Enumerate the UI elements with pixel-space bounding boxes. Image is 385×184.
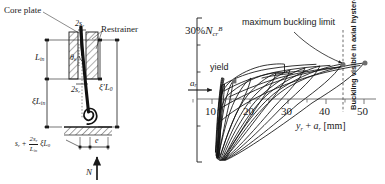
dim-tick-xiL0-bot [98, 78, 102, 81]
y-axis-percent: 30% [185, 24, 205, 36]
xi-l-in-sym: ξL [32, 96, 41, 106]
gap-mid-label: 2sr [71, 86, 80, 95]
left-diagram-panel: Core plate Restrainer 2sr 2sr Lin θb ξ'L… [0, 0, 188, 184]
max-buckling-limit-leader [294, 32, 342, 63]
theta-sub: b [74, 57, 76, 62]
x-tick-label-20: 20 [243, 106, 254, 117]
gap-top-sub: r [82, 23, 84, 28]
formula-plus: + [22, 139, 27, 148]
restrainer-right-block [86, 32, 98, 79]
xi-prime-l0-sub: 0 [110, 86, 113, 92]
formula-fraction: 2sr Lin [29, 135, 39, 153]
xi-prime-l0-sym: ξ'L [99, 82, 110, 92]
formula-fraction-numerator: 2sr [29, 135, 39, 145]
x-tick-label-30: 30 [281, 106, 292, 117]
bottom-formula-leader [66, 140, 80, 147]
xi-prime-l0-label: ξ'L0 [99, 83, 113, 93]
dim-tick-xiLin-bot [45, 126, 49, 129]
x-axis-a-subscript: r [319, 125, 321, 132]
ar-subscript: r [195, 82, 197, 88]
x-tick-label-50: 50 [357, 106, 368, 117]
plastic-hinge-spiral [84, 108, 97, 124]
y-axis-label: 30%NcrB [185, 25, 222, 38]
gap-top-label: 2sr [75, 20, 84, 29]
schematic-svg [0, 0, 188, 184]
formula-tail-sym: ξL [40, 139, 47, 148]
xi-l-in-label: ξLin [32, 97, 45, 107]
x-axis-y-subscript: r [300, 125, 302, 132]
dim-tick-Lin-top [45, 39, 49, 42]
buckling-limit-marker-2 [363, 61, 368, 66]
restrainer-label: Restrainer [101, 25, 138, 34]
gap-mid-sub: r [78, 89, 80, 94]
y-axis-symbol: N [205, 24, 212, 36]
support-hatch-region [64, 127, 112, 135]
dim-tick-right-top [115, 39, 119, 42]
figure-root: Core plate Restrainer 2sr 2sr Lin θb ξ'L… [0, 0, 385, 184]
yield-point-marker [232, 79, 236, 83]
buckling-visible-label: Buckling visible in axial hysteresis [349, 0, 358, 110]
dim-tick-right-bot [115, 126, 119, 129]
theta-label: θb [70, 54, 76, 63]
length-in-label: Lin [35, 53, 44, 63]
length-in-sub: in [40, 56, 44, 62]
x-tick-label-40: 40 [319, 106, 330, 117]
y-axis-superscript: B [218, 25, 222, 32]
core-plate-leader [43, 12, 79, 33]
frac-den-sub: in [34, 148, 37, 153]
max-buckling-limit-label: maximum buckling limit [242, 18, 335, 27]
formula-sr-sub: r [18, 143, 20, 148]
formula-fraction-denominator: Lin [29, 145, 39, 154]
ar-arrow-label: ar [190, 79, 197, 89]
axial-force-label: N [86, 168, 92, 177]
frac-num-sub: r [36, 138, 38, 143]
x-tick-label-10: 10 [205, 106, 216, 117]
yield-label: yield [210, 63, 229, 72]
x-axis-title: yr + ar [mm] [296, 121, 346, 132]
x-axis-unit: [mm] [323, 120, 345, 131]
eccentricity-label: e [95, 137, 99, 145]
core-plate-label: Core plate [4, 6, 41, 15]
bottom-offset-formula: sr + 2sr Lin ξL0 [15, 135, 50, 153]
formula-tail-sub: 0 [48, 143, 50, 148]
x-axis-plus: + [305, 120, 311, 131]
hysteresis-chart-panel: 30%NcrB maximum buckling limit yield ar … [188, 0, 385, 184]
xi-l-in-sub: in [41, 100, 45, 106]
